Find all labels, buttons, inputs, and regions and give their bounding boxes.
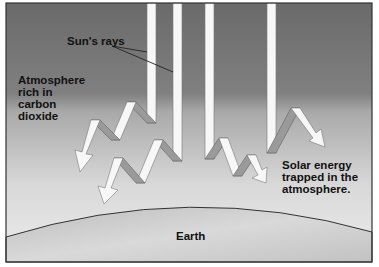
earth-label: Earth — [176, 230, 205, 242]
solar-energy-label: Solar energy trapped in the atmosphere. — [282, 159, 358, 195]
sun-ray-3 — [205, 3, 214, 159]
sun-ray-2 — [173, 3, 182, 161]
atmosphere-label: Atmosphere rich in carbon dioxide — [18, 74, 85, 122]
greenhouse-diagram — [0, 0, 379, 267]
sun-ray-4 — [267, 3, 276, 153]
sun-rays-label: Sun's rays — [67, 35, 125, 47]
